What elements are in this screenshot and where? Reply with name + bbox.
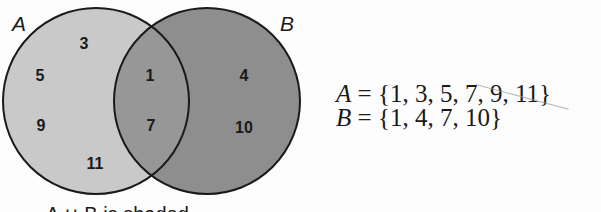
set-b-elements: = {1, 4, 7, 10} <box>351 104 502 131</box>
set-b-label: B <box>280 12 294 35</box>
element-9: 9 <box>37 117 46 134</box>
element-1: 1 <box>146 67 155 84</box>
caption: A ∪ B is shaded <box>46 203 189 212</box>
set-b-var: B <box>336 104 351 131</box>
element-3: 3 <box>80 35 89 52</box>
element-10: 10 <box>235 119 253 136</box>
venn-figure: A B 3 5 9 11 1 7 4 10 A ∪ B is shaded A … <box>0 0 601 212</box>
element-7: 7 <box>147 117 156 134</box>
set-definitions: A = {1, 3, 5, 7, 9, 11} B = {1, 4, 7, 10… <box>336 82 551 130</box>
set-a-var: A <box>336 80 351 107</box>
set-b-definition: B = {1, 4, 7, 10} <box>336 106 551 130</box>
set-a-elements: = {1, 3, 5, 7, 9, 11} <box>351 80 551 107</box>
element-11: 11 <box>87 155 104 172</box>
set-a-definition: A = {1, 3, 5, 7, 9, 11} <box>336 82 551 106</box>
element-5: 5 <box>36 67 45 84</box>
element-4: 4 <box>240 67 249 84</box>
set-a-label: A <box>10 12 26 35</box>
